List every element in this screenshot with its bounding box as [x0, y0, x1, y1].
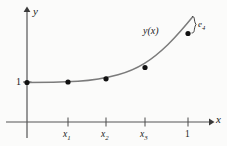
x-tick-label-x3-base: x3: [140, 129, 148, 139]
figure-canvas: y x 1 x1 x2 x3 1 y(x) e4: [0, 0, 227, 146]
x-tick-label-x1: x1: [63, 130, 71, 142]
x-tick-label-x1-base: x1: [63, 129, 71, 139]
x-tick-label-one: 1: [185, 130, 190, 140]
data-point: [24, 80, 29, 85]
x-tick-label-x3: x3: [140, 130, 148, 142]
data-point: [185, 31, 190, 36]
y-tick-label-1: 1: [16, 77, 21, 87]
data-point: [142, 65, 147, 70]
x-axis-arrowhead: [209, 119, 215, 126]
plot-svg: [0, 0, 227, 146]
solution-curve: [27, 17, 193, 83]
error-label: e4: [198, 20, 205, 31]
data-point: [65, 79, 70, 84]
error-label-subscript: 4: [202, 24, 205, 31]
y-axis-label: y: [33, 6, 38, 17]
curve-label: y(x): [143, 26, 159, 36]
y-axis-arrowhead: [24, 7, 31, 13]
x-tick-label-x2-base: x2: [101, 129, 109, 139]
error-brace: [192, 17, 196, 34]
x-tick-label-x2: x2: [101, 130, 109, 142]
data-point: [103, 76, 108, 81]
x-axis-label: x: [216, 114, 221, 125]
